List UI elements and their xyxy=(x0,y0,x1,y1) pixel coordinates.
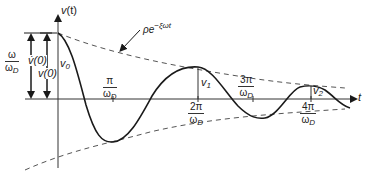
tick-2pi: 2π ωD xyxy=(188,102,204,127)
v1-label: v1 xyxy=(201,77,211,90)
tick-pi-den-var: ω xyxy=(103,88,111,99)
omega-ratio-num: ω xyxy=(5,50,19,62)
v1-sub: 1 xyxy=(207,81,211,90)
tick-3pi-den-sub: D xyxy=(247,91,253,100)
y-axis-arg: (t) xyxy=(67,4,77,16)
omega-ratio-fraction: ω ωD xyxy=(5,50,19,75)
t-axis-label: t xyxy=(358,92,361,103)
tick-4pi-num: 4π xyxy=(300,102,316,114)
omega-ratio-den: ωD xyxy=(5,62,19,75)
omega-ratio-den-sub: D xyxy=(13,66,19,75)
tick-3pi-num: 3π xyxy=(238,75,254,87)
tick-2pi-den-sub: D xyxy=(197,118,203,127)
tick-2pi-num: 2π xyxy=(188,102,204,114)
tick-3pi-den: ωD xyxy=(238,87,254,100)
y-axis-label: v(t) xyxy=(61,5,77,16)
tick-4pi-den: ωD xyxy=(300,114,316,127)
initial-displacement-label: v(0) xyxy=(38,68,57,79)
damped-vibration-diagram: v(t) t ρe−ξωt v0 v1 v2 ω ωD v̇(0) v(0) π… xyxy=(0,0,370,182)
tick-pi-num: π xyxy=(103,76,117,88)
tick-3pi: 3π ωD xyxy=(238,75,254,100)
omega-ratio-den-var: ω xyxy=(5,62,13,73)
envelope-label: ρe−ξωt xyxy=(143,22,171,35)
envelope-pointer xyxy=(122,30,140,49)
envelope-exponent: −ξωt xyxy=(154,21,171,30)
tick-2pi-den: ωD xyxy=(188,114,204,127)
tick-pi: π ωD xyxy=(103,76,117,101)
v0-label: v0 xyxy=(60,58,70,71)
v2-sub: 2 xyxy=(319,89,323,98)
tick-4pi-den-sub: D xyxy=(309,118,315,127)
tick-pi-den-sub: D xyxy=(111,92,117,101)
initial-velocity-label: v̇(0) xyxy=(28,55,47,66)
tick-pi-den: ωD xyxy=(103,88,117,101)
tick-4pi: 4π ωD xyxy=(300,102,316,127)
v0-sub: 0 xyxy=(66,62,70,71)
v2-label: v2 xyxy=(313,85,323,98)
lower-envelope xyxy=(25,109,345,170)
